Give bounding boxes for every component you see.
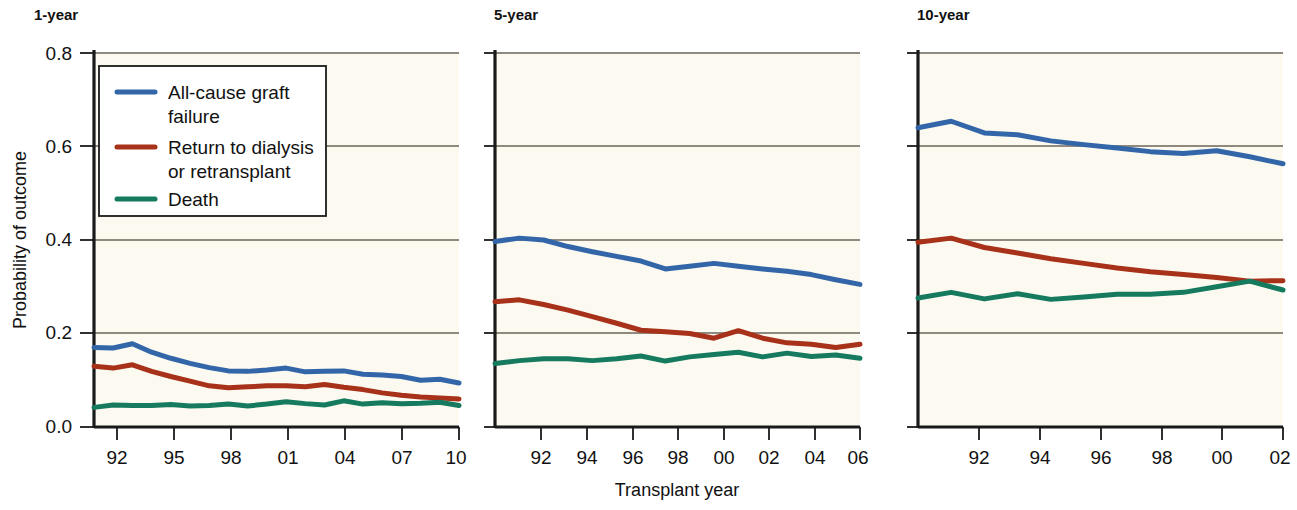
x-tick-label: 06	[847, 447, 868, 468]
x-tick-label: 98	[667, 447, 688, 468]
y-tick-label: 0.0	[46, 416, 72, 437]
legend-label-line2: or retransplant	[168, 161, 291, 182]
panel-title: 1-year	[34, 6, 78, 23]
legend-label: Death	[168, 189, 219, 210]
panel-5-year: 5-year 92 94	[484, 6, 869, 468]
x-tick-label: 92	[530, 447, 551, 468]
x-tick-label: 02	[758, 447, 779, 468]
y-tick-label: 0.2	[46, 322, 72, 343]
x-tick-label: 94	[576, 447, 598, 468]
x-tick-label: 94	[1029, 447, 1051, 468]
x-tick-label: 07	[391, 447, 412, 468]
x-tick-label: 96	[622, 447, 643, 468]
x-tick-label: 04	[804, 447, 826, 468]
x-tick-label: 98	[1151, 447, 1172, 468]
y-tick-label: 0.8	[46, 43, 72, 64]
x-tick-label: 92	[968, 447, 989, 468]
y-tick-label: 0.4	[46, 229, 73, 250]
x-tick-label: 95	[163, 447, 184, 468]
legend-label: Return to dialysis	[168, 137, 314, 158]
multi-panel-line-chart: Probability of outcome 0.8 0.6 0.4 0.2 0…	[0, 0, 1297, 510]
y-tick-label: 0.6	[46, 136, 72, 157]
legend: All-cause graftfailureReturn to dialysis…	[99, 66, 326, 216]
x-tick-label: 00	[1211, 447, 1232, 468]
y-axis-title: Probability of outcome	[10, 151, 30, 329]
x-tick-label: 92	[106, 447, 127, 468]
panel-title: 5-year	[494, 6, 538, 23]
x-tick-label: 10	[445, 447, 466, 468]
x-tick-label: 96	[1090, 447, 1111, 468]
x-axis-title: Transplant year	[615, 480, 739, 500]
legend-label-line2: failure	[168, 106, 220, 127]
panel-title: 10-year	[917, 6, 970, 23]
legend-label: All-cause graft	[168, 82, 290, 103]
panel-10-year: 10-year 92 94 96 98	[907, 6, 1291, 468]
x-tick-label: 98	[220, 447, 241, 468]
x-tick-label: 01	[277, 447, 298, 468]
x-tick-label: 02	[1269, 447, 1290, 468]
x-tick-label: 04	[334, 447, 356, 468]
x-tick-label: 00	[713, 447, 734, 468]
